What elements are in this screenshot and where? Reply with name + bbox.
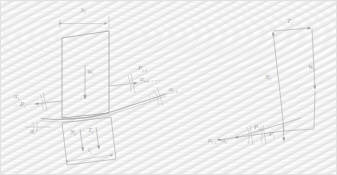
width-dimension <box>60 16 109 28</box>
figure-container: bi Wi Pi-1 αi-1 αi-1 αi Pi αi Ni Ti li T… <box>0 0 337 175</box>
force-polygon-shape <box>217 28 315 145</box>
slice-body <box>62 31 109 118</box>
base-angle-right-tick <box>149 87 173 106</box>
base-angle-left-marker <box>25 122 51 132</box>
diagram-vector-art <box>1 1 337 175</box>
base-forces-block <box>62 117 116 165</box>
interslice-force-left <box>14 92 62 111</box>
